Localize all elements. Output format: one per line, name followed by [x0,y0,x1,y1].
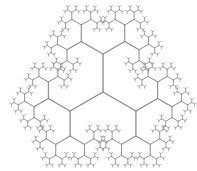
branch-segment [31,92,33,93]
branch-segment [156,125,158,126]
branch-segment [45,41,47,42]
branch-segment [44,46,47,48]
branch-segment [49,53,52,55]
branch-segment [46,129,50,131]
branch-segment [86,164,88,165]
branch-segment [90,125,92,126]
branch-segment [33,140,36,142]
branch-segment [112,139,121,144]
branch-segment [173,78,177,80]
branch-segment [150,139,159,144]
branch-segment [62,35,65,37]
branch-segment [60,16,62,17]
branch-segment [112,129,116,131]
branch-segment [101,16,103,17]
branch-segment [19,119,21,120]
branch-segment [59,164,62,166]
branch-segment [100,28,102,29]
branch-segment [169,85,171,86]
branch-segment [61,21,65,23]
branch-segment [43,46,45,47]
branch-segment [103,130,105,131]
branch-segment [91,164,94,166]
branch-segment [55,58,57,59]
branch-segment [177,78,180,80]
branch-segment [176,85,178,86]
branch-segment [14,103,18,105]
branch-segment [182,115,184,116]
branch-segment [70,92,103,111]
branch-segment [148,67,152,69]
branch-segment [97,147,100,149]
branch-segment [34,98,48,106]
branch-segment [188,110,191,112]
branch-segment [157,41,159,42]
branch-segment [158,98,172,106]
branch-segment [108,125,110,126]
branch-segment [186,88,188,89]
branch-segment [160,115,162,116]
branch-segment [159,41,161,42]
branch-segment [125,41,139,49]
branch-segment [14,98,16,99]
branch-segment [38,126,41,128]
branch-segment [53,31,55,32]
branch-segment [140,67,142,68]
branch-segment [92,28,94,29]
branch-segment [50,129,53,131]
branch-segment [122,155,128,159]
branch-segment [168,136,170,137]
branch-segment [164,129,167,131]
branch-segment [30,85,33,87]
branch-segment [115,164,118,166]
branch-segment [173,85,176,87]
branch-segment [74,152,76,153]
branch-segment [78,164,81,166]
branch-segment [171,63,173,64]
branch-segment [81,19,90,24]
branch-segment [192,98,194,99]
branch-segment [31,141,33,142]
branch-segment [185,110,188,112]
branch-segment [25,101,34,106]
branch-segment [23,127,25,128]
branch-segment [142,76,148,80]
branch-segment [161,152,163,153]
branch-segment [113,164,116,166]
branch-segment [76,70,78,71]
branch-segment [66,19,72,23]
branch-segment [49,35,51,36]
branch-segment [148,58,150,59]
branch-segment [40,139,46,143]
branch-segment [50,164,53,166]
branch-segment [51,53,54,55]
branch-segment [109,19,115,23]
branch-segment [141,10,143,11]
branch-segment [39,67,43,69]
branch-segment [84,155,90,159]
branch-segment [154,164,157,166]
branch-segment [111,152,113,153]
branch-segment [195,103,197,104]
branch-segment [158,67,160,68]
branch-segment [24,78,26,79]
branch-segment [93,6,95,7]
branch-segment [181,127,183,128]
branch-segment [10,103,12,104]
branch-segment [36,127,38,128]
branch-segment [162,115,164,116]
branch-segment [160,139,166,143]
branch-segment [64,152,66,153]
branch-segment [62,157,66,159]
branch-segment [155,53,158,55]
branch-segment [173,92,175,93]
branch-segment [45,157,49,159]
branch-segment [104,136,106,137]
branch-segment [29,92,32,94]
branch-segment [50,125,52,126]
branch-segment [138,78,142,80]
branch-segment [48,76,57,81]
branch-segment [94,28,97,30]
branch-segment [168,127,170,128]
branch-segment [136,98,158,111]
